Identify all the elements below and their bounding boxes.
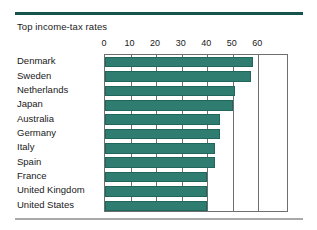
category-label-united-kingdom: United Kingdom bbox=[17, 184, 85, 195]
x-tick-label-20: 20 bbox=[150, 38, 160, 48]
bar-australia bbox=[105, 114, 220, 125]
x-axis-tick-labels: 0102030405060 bbox=[104, 38, 288, 51]
category-label-australia: Australia bbox=[17, 113, 54, 124]
bar-france bbox=[105, 172, 207, 183]
category-label-germany: Germany bbox=[17, 127, 56, 138]
chart-figure: Top income-tax rates 0102030405060 Denma… bbox=[0, 0, 317, 230]
category-labels: DenmarkSwedenNetherlandsJapanAustraliaGe… bbox=[17, 54, 103, 212]
x-tick-label-0: 0 bbox=[101, 38, 106, 48]
category-label-spain: Spain bbox=[17, 156, 41, 167]
x-tick-label-60: 60 bbox=[252, 38, 262, 48]
chart-title: Top income-tax rates bbox=[17, 21, 107, 32]
x-tick-label-40: 40 bbox=[201, 38, 211, 48]
plot-area bbox=[104, 54, 288, 212]
bar-united-states bbox=[105, 201, 207, 212]
top-rule bbox=[15, 12, 303, 15]
x-tick-label-30: 30 bbox=[176, 38, 186, 48]
bar-japan bbox=[105, 100, 233, 111]
bar-united-kingdom bbox=[105, 186, 207, 197]
category-label-italy: Italy bbox=[17, 141, 34, 152]
bottom-rule bbox=[15, 218, 303, 220]
bar-italy bbox=[105, 143, 215, 154]
bar-sweden bbox=[105, 71, 251, 82]
x-tick-label-50: 50 bbox=[227, 38, 237, 48]
category-label-netherlands: Netherlands bbox=[17, 84, 68, 95]
bar-netherlands bbox=[105, 86, 235, 97]
category-label-united-states: United States bbox=[17, 199, 74, 210]
x-tick-label-10: 10 bbox=[125, 38, 135, 48]
category-label-france: France bbox=[17, 170, 47, 181]
bar-spain bbox=[105, 157, 215, 168]
category-label-japan: Japan bbox=[17, 98, 43, 109]
bar-denmark bbox=[105, 57, 253, 68]
category-label-sweden: Sweden bbox=[17, 70, 51, 81]
gridline-60 bbox=[258, 55, 259, 211]
category-label-denmark: Denmark bbox=[17, 55, 56, 66]
bar-germany bbox=[105, 129, 220, 140]
